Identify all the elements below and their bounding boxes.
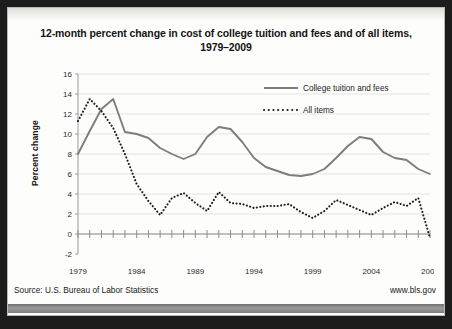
legend-label-1: All items bbox=[303, 106, 334, 115]
y-axis-label: Percent change bbox=[30, 108, 40, 198]
x-tick-label: 1979 bbox=[69, 267, 87, 276]
y-tick-label: 16 bbox=[63, 70, 72, 79]
series-line-1 bbox=[78, 99, 430, 238]
y-tick-label: 14 bbox=[63, 90, 72, 99]
legend-label-0: College tuition and fees bbox=[303, 84, 389, 93]
chart-footer: Source: U.S. Bureau of Labor Statistics … bbox=[8, 285, 444, 301]
screenshot-frame: 12-month percent change in cost of colle… bbox=[0, 0, 452, 329]
card-top-gradient bbox=[8, 8, 444, 21]
chart-title: 12-month percent change in cost of colle… bbox=[18, 26, 434, 54]
x-tick-label: 1989 bbox=[186, 267, 204, 276]
y-tick-label: -2 bbox=[65, 250, 73, 259]
x-tick-label: 2004 bbox=[362, 267, 380, 276]
website-text[interactable]: www.bls.gov bbox=[390, 285, 436, 295]
chart-title-line-2: 1979–2009 bbox=[18, 40, 434, 54]
x-tick-label: 1999 bbox=[304, 267, 322, 276]
y-tick-label: 8 bbox=[68, 150, 73, 159]
x-tick-label: 1984 bbox=[128, 267, 146, 276]
series-line-0 bbox=[78, 99, 430, 176]
y-tick-label: 12 bbox=[63, 110, 72, 119]
footer-gray-band bbox=[8, 304, 444, 313]
y-tick-label: 4 bbox=[68, 190, 73, 199]
y-tick-label: 6 bbox=[68, 170, 73, 179]
y-tick-label: 0 bbox=[68, 230, 73, 239]
source-text: Source: U.S. Bureau of Labor Statistics bbox=[14, 285, 158, 295]
y-tick-label: 10 bbox=[63, 130, 72, 139]
chart-card: 12-month percent change in cost of colle… bbox=[8, 8, 444, 315]
chart-svg: -202468101214161979198419891994199920042… bbox=[52, 66, 434, 288]
plot-area: -202468101214161979198419891994199920042… bbox=[52, 66, 434, 288]
chart-title-line-1: 12-month percent change in cost of colle… bbox=[18, 26, 434, 40]
x-tick-label: 2009 bbox=[421, 267, 434, 276]
y-tick-label: 2 bbox=[68, 210, 73, 219]
x-tick-label: 1994 bbox=[245, 267, 263, 276]
